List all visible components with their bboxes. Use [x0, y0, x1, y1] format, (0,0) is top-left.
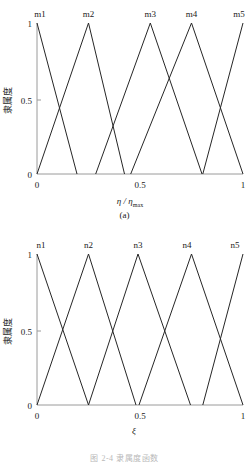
mf-curve-m4	[131, 23, 243, 174]
y-tick-label-b-0: 0	[28, 401, 33, 411]
membership-plot-b: 隶属度 1 0.5 0 n1 n2 n3 n4 n5 0 0.5 1 ξ	[0, 231, 249, 462]
y-tick-label-a-0: 0	[28, 170, 33, 180]
set-label-n5: n5	[231, 240, 241, 250]
set-label-m2: m2	[83, 9, 95, 19]
x-axis-label-b: ξ	[132, 426, 136, 436]
x-axis-label-a-sub: max	[133, 202, 143, 208]
figure-caption: 图 2-4 隶属度函数	[0, 452, 249, 462]
mf-curve-m1	[37, 23, 77, 174]
y-axis-label-a: 隶属度	[2, 87, 13, 114]
x-tick-label-b-1: 1	[241, 411, 246, 421]
set-label-n3: n3	[134, 240, 144, 250]
y-tick-label-a-05: 0.5	[21, 96, 33, 106]
mf-curve-n2	[37, 254, 136, 405]
set-label-n4: n4	[183, 240, 193, 250]
set-label-m5: m5	[233, 9, 245, 19]
set-label-n1: n1	[37, 240, 46, 250]
y-axis-label-b: 隶属度	[2, 318, 13, 345]
set-label-n2: n2	[84, 240, 93, 250]
membership-chart-panel-a: 隶属度 1 0.5 0 m1 m2 m3 m4 m5 0 0.5 1 η / η…	[0, 0, 249, 231]
y-tick-label-b-1: 1	[28, 250, 33, 260]
panel-caption-a: (a)	[0, 210, 249, 220]
set-label-m4: m4	[186, 9, 198, 19]
x-tick-label-b-0: 0	[35, 411, 40, 421]
x-tick-label-a-05: 0.5	[134, 180, 146, 190]
membership-chart-panel-b: 隶属度 1 0.5 0 n1 n2 n3 n4 n5 0 0.5 1 ξ (b)	[0, 231, 249, 462]
mf-curve-m2	[37, 23, 125, 174]
mf-curve-m5	[203, 23, 243, 174]
y-tick-label-b-05: 0.5	[21, 327, 33, 337]
mf-curve-m3	[96, 23, 202, 174]
x-tick-label-a-1: 1	[241, 180, 246, 190]
x-tick-label-b-05: 0.5	[134, 411, 146, 421]
membership-plot-a: 隶属度 1 0.5 0 m1 m2 m3 m4 m5 0 0.5 1 η / η…	[0, 0, 249, 231]
x-tick-label-a-0: 0	[35, 180, 40, 190]
set-label-m1: m1	[34, 9, 46, 19]
x-axis-label-a-main: η / η	[117, 196, 133, 206]
mf-curve-n4	[139, 254, 243, 405]
mf-curve-n5	[203, 254, 243, 405]
set-label-m3: m3	[145, 9, 157, 19]
x-axis-label-a: η / ηmax	[117, 196, 143, 208]
y-tick-label-a-1: 1	[28, 19, 33, 29]
mf-curve-n3	[89, 254, 191, 405]
